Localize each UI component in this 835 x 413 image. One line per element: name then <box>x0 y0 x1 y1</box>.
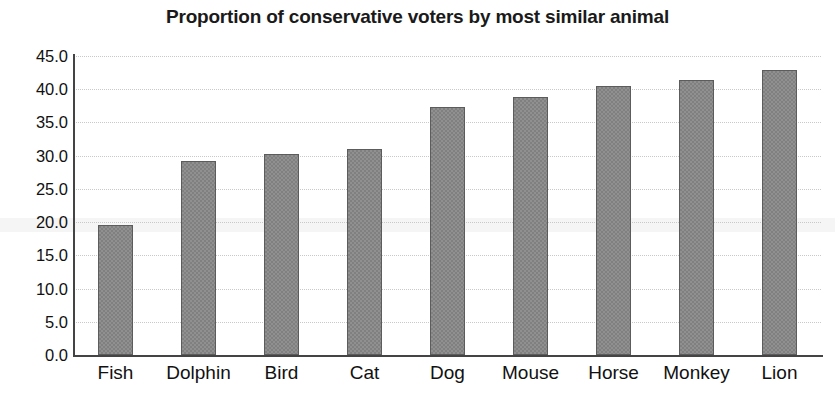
x-tick-label-dog: Dog <box>406 362 489 384</box>
bar-dog[interactable] <box>430 107 465 356</box>
bar-slot <box>347 56 382 355</box>
y-tick-label: 30.0 <box>4 146 68 165</box>
y-axis-line <box>73 54 75 356</box>
x-axis-line <box>73 355 823 357</box>
x-tick-label-dolphin: Dolphin <box>157 362 240 384</box>
bar-slot <box>762 56 797 355</box>
bar-lion[interactable] <box>762 70 797 355</box>
y-tick-label: 25.0 <box>4 179 68 198</box>
bar-slot <box>98 56 133 355</box>
bar-slot <box>264 56 299 355</box>
y-tick-label: 0.0 <box>4 346 68 365</box>
x-axis-tick-labels: FishDolphinBirdCatDogMouseHorseMonkeyLio… <box>74 360 821 400</box>
bar-horse[interactable] <box>596 86 631 355</box>
bar-chart: Proportion of conservative voters by mos… <box>0 0 835 413</box>
y-tick-label: 35.0 <box>4 113 68 132</box>
x-tick-label-monkey: Monkey <box>655 362 738 384</box>
y-tick-label: 40.0 <box>4 80 68 99</box>
x-tick-label-horse: Horse <box>572 362 655 384</box>
chart-title: Proportion of conservative voters by mos… <box>0 6 835 28</box>
plot-area <box>74 56 821 355</box>
bar-bird[interactable] <box>264 154 299 355</box>
bar-slot <box>513 56 548 355</box>
x-tick-label-fish: Fish <box>74 362 157 384</box>
x-tick-label-bird: Bird <box>240 362 323 384</box>
bar-dolphin[interactable] <box>181 161 216 355</box>
y-tick-label: 5.0 <box>4 312 68 331</box>
bar-cat[interactable] <box>347 149 382 355</box>
bar-slot <box>596 56 631 355</box>
bar-mouse[interactable] <box>513 97 548 355</box>
y-tick-label: 20.0 <box>4 213 68 232</box>
x-tick-label-mouse: Mouse <box>489 362 572 384</box>
y-tick-label: 10.0 <box>4 279 68 298</box>
bar-slot <box>679 56 714 355</box>
x-tick-label-lion: Lion <box>738 362 821 384</box>
bars-layer <box>74 56 821 355</box>
bar-slot <box>430 56 465 355</box>
y-tick-label: 45.0 <box>4 47 68 66</box>
y-axis-tick-labels: 0.05.010.015.020.025.030.035.040.045.0 <box>0 56 68 355</box>
bar-monkey[interactable] <box>679 80 714 355</box>
x-tick-label-cat: Cat <box>323 362 406 384</box>
bar-fish[interactable] <box>98 225 133 355</box>
y-tick-label: 15.0 <box>4 246 68 265</box>
bar-slot <box>181 56 216 355</box>
